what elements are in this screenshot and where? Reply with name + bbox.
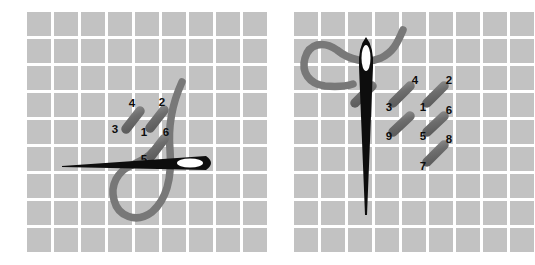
fabric-square — [216, 174, 240, 198]
fabric-square — [135, 228, 159, 252]
fabric-square — [294, 147, 318, 171]
step-number-2: 2 — [159, 96, 165, 108]
fabric-square — [483, 147, 507, 171]
fabric-square — [375, 147, 399, 171]
fabric-square — [216, 147, 240, 171]
fabric-square — [108, 66, 132, 90]
fabric-square — [510, 39, 534, 63]
fabric-square — [294, 174, 318, 198]
fabric-square — [27, 201, 51, 225]
fabric-square — [483, 120, 507, 144]
step-number-4: 4 — [129, 97, 136, 109]
fabric-square — [54, 201, 78, 225]
fabric-square — [81, 93, 105, 117]
fabric-square — [189, 201, 213, 225]
fabric-square — [321, 12, 345, 36]
fabric-square — [81, 66, 105, 90]
fabric-square — [294, 228, 318, 252]
fabric-square — [27, 147, 51, 171]
fabric-square — [321, 201, 345, 225]
step-number-6: 6 — [446, 104, 452, 116]
fabric-square — [81, 228, 105, 252]
fabric-square — [429, 228, 453, 252]
step-number-1: 1 — [141, 126, 148, 138]
fabric-square — [510, 66, 534, 90]
fabric-square — [216, 39, 240, 63]
fabric-square — [375, 12, 399, 36]
step-number-8: 8 — [446, 133, 453, 145]
fabric-square — [243, 120, 267, 144]
step-number-1: 1 — [420, 101, 427, 113]
fabric-square — [402, 39, 426, 63]
fabric-square — [216, 66, 240, 90]
fabric-square — [321, 120, 345, 144]
fabric-square — [510, 147, 534, 171]
fabric-square — [429, 201, 453, 225]
fabric-square — [429, 39, 453, 63]
fabric-square — [348, 12, 372, 36]
fabric-square — [27, 66, 51, 90]
fabric-square — [456, 120, 480, 144]
fabric-square — [54, 12, 78, 36]
fabric-square — [375, 228, 399, 252]
fabric-square — [216, 12, 240, 36]
fabric-square — [510, 201, 534, 225]
fabric-square — [375, 66, 399, 90]
fabric-square — [510, 120, 534, 144]
fabric-square — [294, 12, 318, 36]
fabric-square — [54, 174, 78, 198]
fabric-square — [54, 66, 78, 90]
fabric-square — [54, 93, 78, 117]
fabric-square — [456, 228, 480, 252]
fabric-square — [27, 228, 51, 252]
step-one-canvas: 432165 — [0, 0, 268, 265]
fabric-square — [456, 174, 480, 198]
fabric-square — [189, 39, 213, 63]
fabric-square — [189, 93, 213, 117]
fabric-square — [27, 120, 51, 144]
fabric-square — [243, 93, 267, 117]
fabric-square — [216, 228, 240, 252]
fabric-square — [321, 174, 345, 198]
fabric-square — [135, 174, 159, 198]
fabric-square — [483, 66, 507, 90]
fabric-square — [243, 201, 267, 225]
fabric-square — [135, 39, 159, 63]
fabric-square — [162, 39, 186, 63]
fabric-square — [243, 12, 267, 36]
fabric-square — [81, 201, 105, 225]
step-number-3: 3 — [112, 123, 118, 135]
fabric-square — [510, 93, 534, 117]
fabric-square — [54, 228, 78, 252]
step-number-6: 6 — [163, 126, 169, 138]
step-one-panel: 432165 — [0, 0, 268, 265]
fabric-square — [294, 93, 318, 117]
fabric-square — [456, 66, 480, 90]
fabric-square — [483, 174, 507, 198]
fabric-square — [294, 120, 318, 144]
fabric-square — [243, 174, 267, 198]
fabric-square — [243, 66, 267, 90]
fabric-square — [483, 201, 507, 225]
fabric-square — [162, 228, 186, 252]
fabric-square — [243, 39, 267, 63]
fabric-square — [27, 12, 51, 36]
fabric-square — [483, 93, 507, 117]
step-number-5: 5 — [420, 130, 427, 142]
fabric-square — [189, 66, 213, 90]
embroidery-diagram-root: 432165 432165987 — [0, 0, 535, 265]
fabric-square — [189, 228, 213, 252]
fabric-square — [456, 201, 480, 225]
fabric-square — [216, 120, 240, 144]
fabric-square — [429, 174, 453, 198]
step-two-canvas: 432165987 — [267, 0, 535, 265]
fabric-square — [81, 39, 105, 63]
fabric-square — [483, 39, 507, 63]
step-number-2: 2 — [446, 74, 452, 86]
fabric-square — [216, 201, 240, 225]
step-number-3: 3 — [386, 101, 392, 113]
fabric-square — [81, 174, 105, 198]
fabric-square — [135, 12, 159, 36]
fabric-square — [483, 12, 507, 36]
fabric-square — [27, 93, 51, 117]
